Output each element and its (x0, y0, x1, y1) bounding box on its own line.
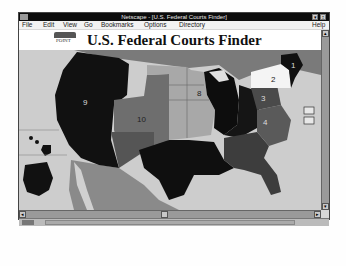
menu-view[interactable]: View (63, 21, 77, 29)
menu-bar: File Edit View Go Bookmarks Options Dire… (19, 21, 329, 29)
menu-go[interactable]: Go (84, 21, 93, 29)
svg-text:2: 2 (271, 75, 276, 84)
minimize-button[interactable]: ▾ (312, 14, 318, 20)
vertical-scrollbar[interactable]: ▴ ▾ (321, 30, 329, 210)
system-menu-button[interactable] (20, 14, 28, 20)
menu-edit[interactable]: Edit (43, 21, 54, 29)
maximize-button[interactable]: ↕ (320, 14, 326, 20)
svg-text:10: 10 (137, 115, 146, 124)
scroll-down-button[interactable]: ▾ (322, 203, 329, 210)
window-title: Netscape - [U.S. Federal Courts Finder] (99, 13, 249, 21)
status-bar (19, 218, 329, 226)
scroll-left-button[interactable]: ◂ (19, 211, 26, 218)
logo-text: POINT (56, 38, 71, 43)
svg-text:4: 4 (263, 118, 268, 127)
page-content: POINT U.S. Federal Courts Finder 9 (19, 30, 321, 210)
svg-text:8: 8 (197, 89, 202, 98)
us-circuit-map[interactable]: 9 10 8 (19, 50, 321, 210)
menu-directory[interactable]: Directory (179, 21, 205, 29)
svg-text:3: 3 (261, 94, 266, 103)
status-text-field (45, 220, 295, 225)
site-logo[interactable]: POINT (54, 32, 76, 47)
horizontal-scroll-thumb[interactable] (161, 211, 168, 218)
horizontal-scrollbar[interactable]: ◂ ▸ (19, 210, 321, 218)
menu-file[interactable]: File (22, 21, 32, 29)
federal-circuit-button[interactable] (304, 117, 314, 124)
security-key-icon (22, 220, 34, 225)
svg-text:1: 1 (291, 61, 296, 70)
menu-help[interactable]: Help (312, 21, 325, 29)
page-title: U.S. Federal Courts Finder (87, 32, 262, 49)
title-bar: Netscape - [U.S. Federal Courts Finder] … (19, 13, 329, 21)
dc-circuit-button[interactable] (304, 107, 314, 114)
menu-bookmarks[interactable]: Bookmarks (101, 21, 134, 29)
scroll-up-button[interactable]: ▴ (322, 30, 329, 37)
scroll-right-button[interactable]: ▸ (314, 211, 321, 218)
menu-options[interactable]: Options (144, 21, 166, 29)
browser-window: Netscape - [U.S. Federal Courts Finder] … (18, 12, 330, 220)
page-header: POINT U.S. Federal Courts Finder (19, 30, 321, 50)
svg-text:9: 9 (83, 98, 88, 107)
